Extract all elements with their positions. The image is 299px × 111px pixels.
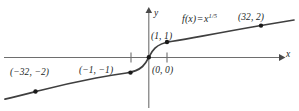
point-label-minus32-minus2: (−32, −2) (10, 68, 49, 78)
function-curve (5, 20, 294, 99)
data-point-32-2 (259, 23, 263, 27)
y-axis-arrow-icon (146, 7, 153, 13)
function-exponent: 1/5 (209, 12, 218, 19)
point-label-minus1-minus1: (−1, −1) (79, 66, 113, 76)
point-label-0-0: (0, 0) (152, 66, 173, 76)
data-point-minus32-minus2 (33, 89, 37, 93)
function-equals-sign: = (196, 13, 204, 24)
function-equation-label: f(x)=x1/5 (182, 14, 217, 24)
x-axis-label: x (286, 50, 290, 60)
function-name: f(x) (182, 13, 196, 24)
point-label-1-1: (1, 1) (151, 32, 172, 42)
function-graph-figure: (−32, −2) (−1, −1) (0, 0) (1, 1) (32, 2)… (0, 0, 299, 111)
data-point-minus1-minus1 (128, 70, 132, 74)
x-axis-arrow-icon (279, 54, 286, 61)
data-point-0-0 (147, 55, 151, 59)
y-axis-label: y (154, 9, 158, 19)
point-label-32-2: (32, 2) (238, 13, 264, 23)
